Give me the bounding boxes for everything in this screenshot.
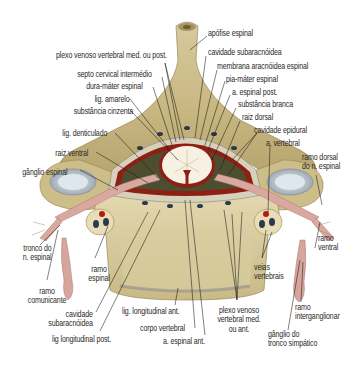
label-lig-amarelo: lig. amarelo xyxy=(95,95,130,104)
label-ramo-espinal: ramo espinal xyxy=(86,265,112,284)
label-line: n. espinal xyxy=(23,253,52,262)
label-pia-mater: pia-máter espinal xyxy=(226,75,278,84)
label-a-espinal-ant: a. espinal ant. xyxy=(163,337,205,346)
label-tronco-n-espinal: tronco do n. espinal xyxy=(23,244,52,263)
label-corpo-vertebral: corpo vertebral xyxy=(140,324,185,333)
label-ramo-interganglionar: ramo interganglionar xyxy=(295,303,340,322)
label-line: plexo venoso xyxy=(217,306,262,315)
label-apofise-espinal: apófise espinal xyxy=(208,29,253,38)
label-raiz-ventral: raiz ventral xyxy=(55,149,88,158)
label-line: ramo xyxy=(26,287,69,296)
label-line: ramo xyxy=(318,234,338,243)
label-ganglio-tronco-simpatico: gânglio do tronco simpático xyxy=(268,330,317,349)
label-line: vertebrais xyxy=(254,272,284,281)
label-dura-mater: dura-máter espinal xyxy=(87,82,143,91)
label-ganglio-espinal: gânglio espinal xyxy=(22,168,67,177)
label-cavidade-subaracnoidea-top: cavidade subaracnóidea xyxy=(208,48,282,57)
label-line: gânglio do xyxy=(268,330,317,339)
label-lig-longitudinal-ant: lig. longitudinal ant. xyxy=(122,307,179,316)
label-plexo-ant: plexo venoso vertebral med. ou ant. xyxy=(217,306,262,334)
label-raiz-dorsal: raiz dorsal xyxy=(242,113,273,122)
label-line: tronco do xyxy=(23,244,52,253)
label-line: ramo xyxy=(295,303,340,312)
label-line: subaracnóidea xyxy=(48,319,93,328)
label-ramo-comunicante: ramo comunicante xyxy=(26,287,69,306)
label-line: cavidade xyxy=(48,310,93,319)
label-line: espinal xyxy=(86,274,112,283)
label-line: ramo dorsal xyxy=(302,153,340,162)
label-lig-denticulado: lig. denticulado xyxy=(62,129,107,138)
label-lig-longitudinal-post: lig longitudinal post. xyxy=(52,335,111,344)
spinal-cord xyxy=(159,144,215,188)
label-a-vertebral: a. vertebral xyxy=(266,139,300,148)
vertebral-body xyxy=(86,194,282,300)
label-ramo-dorsal: ramo dorsal do n. espinal xyxy=(302,153,340,172)
label-line: comunicante xyxy=(26,296,69,305)
label-septo-cervical: septo cervical intermédio xyxy=(77,70,152,79)
label-line: interganglionar xyxy=(295,312,340,321)
label-line: tronco simpático xyxy=(268,339,317,348)
label-line: ventral xyxy=(318,243,338,252)
label-veias-vertebrais: veias vertebrais xyxy=(254,263,284,282)
label-line: ramo xyxy=(86,265,112,274)
label-substancia-cinzenta: substância cinzenta xyxy=(74,107,133,116)
label-line: do n. espinal xyxy=(302,162,340,171)
label-line: vertebral med. xyxy=(217,315,262,324)
label-cavidade-subaracnoidea-bottom: cavidade subaracnóidea xyxy=(48,310,93,329)
label-line: veias xyxy=(254,263,284,272)
label-cavidade-epidural: cavidade epidural xyxy=(254,126,307,135)
label-ramo-ventral: ramo ventral xyxy=(318,234,338,253)
label-line: ou ant. xyxy=(217,325,262,334)
anatomy-figure: apófise espinal cavidade subaracnóidea m… xyxy=(0,0,363,369)
label-membrana-aracnoidea: membrana aracnóidea espinal xyxy=(217,62,308,71)
label-a-espinal-post: a. espinal post. xyxy=(232,88,277,97)
label-substancia-branca: substância branca xyxy=(238,100,293,109)
label-plexo-post: plexo venoso vertebral med. ou post. xyxy=(56,51,167,60)
